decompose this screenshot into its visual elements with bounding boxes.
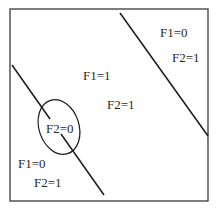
label-center-f1: F1=1 (83, 68, 111, 83)
region-diagram: F1=0 F2=1 F1=1 F2=1 F2=0 F1=0 F2=1 (0, 0, 216, 216)
left-boundary-line-upper (12, 65, 50, 119)
label-top-right-f2: F2=1 (172, 50, 200, 65)
label-bottom-left-f1: F1=0 (18, 156, 46, 171)
label-ellipse-f2: F2=0 (46, 121, 74, 136)
label-center-f2: F2=1 (107, 97, 135, 112)
label-top-right-f1: F1=0 (160, 25, 188, 40)
label-bottom-left-f2: F2=1 (34, 175, 62, 190)
left-boundary-line-lower (61, 134, 104, 195)
